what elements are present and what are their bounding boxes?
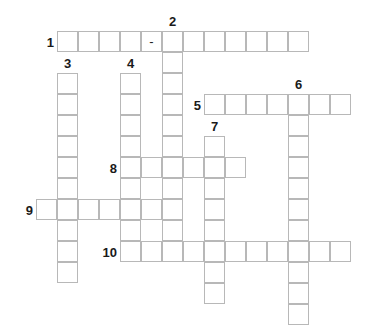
crossword-cell[interactable] xyxy=(225,94,246,115)
clue-number-10-across: 10 xyxy=(97,246,117,259)
crossword-cell[interactable] xyxy=(267,241,288,262)
crossword-cell[interactable] xyxy=(288,199,309,220)
crossword-cell-letter xyxy=(100,200,119,219)
crossword-cell[interactable] xyxy=(99,199,120,220)
crossword-cell[interactable] xyxy=(288,262,309,283)
crossword-cell[interactable] xyxy=(204,157,225,178)
crossword-cell[interactable] xyxy=(120,241,141,262)
crossword-cell[interactable] xyxy=(288,283,309,304)
crossword-cell[interactable] xyxy=(288,220,309,241)
crossword-cell-letter xyxy=(121,221,140,240)
crossword-cell-letter xyxy=(226,32,245,51)
crossword-cell[interactable] xyxy=(225,31,246,52)
crossword-cell-letter xyxy=(163,179,182,198)
crossword-cell[interactable] xyxy=(225,241,246,262)
crossword-cell[interactable] xyxy=(162,157,183,178)
crossword-cell-letter xyxy=(163,116,182,135)
crossword-cell[interactable] xyxy=(141,199,162,220)
crossword-cell[interactable] xyxy=(162,52,183,73)
crossword-cell[interactable] xyxy=(225,157,246,178)
crossword-cell[interactable] xyxy=(288,178,309,199)
crossword-cell-letter xyxy=(121,95,140,114)
crossword-cell[interactable] xyxy=(120,199,141,220)
crossword-cell-letter xyxy=(121,242,140,261)
crossword-cell[interactable] xyxy=(120,115,141,136)
crossword-cell[interactable] xyxy=(162,220,183,241)
crossword-cell[interactable] xyxy=(57,220,78,241)
crossword-cell-letter xyxy=(289,305,308,324)
crossword-cell[interactable] xyxy=(288,31,309,52)
crossword-cell[interactable] xyxy=(36,199,57,220)
crossword-cell[interactable] xyxy=(309,241,330,262)
crossword-cell[interactable] xyxy=(246,94,267,115)
crossword-cell[interactable] xyxy=(246,31,267,52)
crossword-cell[interactable] xyxy=(288,94,309,115)
crossword-cell[interactable] xyxy=(57,178,78,199)
crossword-cell[interactable] xyxy=(183,31,204,52)
crossword-cell-letter xyxy=(226,158,245,177)
crossword-cell[interactable] xyxy=(57,241,78,262)
crossword-cell[interactable] xyxy=(57,262,78,283)
crossword-cell[interactable] xyxy=(204,31,225,52)
crossword-cell[interactable] xyxy=(288,157,309,178)
crossword-cell[interactable] xyxy=(162,241,183,262)
crossword-cell-letter xyxy=(79,32,98,51)
crossword-cell-letter xyxy=(247,95,266,114)
crossword-cell[interactable] xyxy=(288,136,309,157)
crossword-cell[interactable] xyxy=(162,94,183,115)
crossword-cell[interactable] xyxy=(57,73,78,94)
crossword-cell[interactable] xyxy=(162,31,183,52)
crossword-cell[interactable] xyxy=(78,31,99,52)
crossword-cell[interactable] xyxy=(57,136,78,157)
crossword-cell[interactable] xyxy=(120,178,141,199)
crossword-cell[interactable] xyxy=(183,241,204,262)
crossword-cell[interactable] xyxy=(204,94,225,115)
crossword-cell-letter xyxy=(205,158,224,177)
crossword-cell[interactable] xyxy=(183,157,204,178)
crossword-cell[interactable] xyxy=(57,115,78,136)
crossword-cell[interactable] xyxy=(120,94,141,115)
crossword-cell[interactable] xyxy=(162,199,183,220)
crossword-cell[interactable] xyxy=(120,136,141,157)
crossword-cell[interactable] xyxy=(204,178,225,199)
crossword-cell[interactable] xyxy=(57,157,78,178)
crossword-cell[interactable] xyxy=(162,73,183,94)
crossword-cell[interactable] xyxy=(330,241,351,262)
crossword-cell[interactable] xyxy=(99,31,120,52)
crossword-cell[interactable] xyxy=(309,94,330,115)
crossword-cell[interactable] xyxy=(141,241,162,262)
crossword-cell-letter xyxy=(184,242,203,261)
crossword-cell[interactable] xyxy=(120,157,141,178)
crossword-cell[interactable] xyxy=(204,262,225,283)
crossword-cell[interactable] xyxy=(330,94,351,115)
crossword-cell[interactable] xyxy=(57,94,78,115)
crossword-cell[interactable] xyxy=(204,136,225,157)
crossword-cell[interactable]: - xyxy=(141,31,162,52)
crossword-cell-letter xyxy=(121,32,140,51)
crossword-cell[interactable] xyxy=(288,241,309,262)
crossword-cell[interactable] xyxy=(288,115,309,136)
crossword-cell[interactable] xyxy=(162,115,183,136)
crossword-cell[interactable] xyxy=(267,94,288,115)
crossword-cell[interactable] xyxy=(120,31,141,52)
crossword-cell[interactable] xyxy=(120,220,141,241)
crossword-cell[interactable] xyxy=(141,157,162,178)
crossword-cell[interactable] xyxy=(204,283,225,304)
clue-number-9-across: 9 xyxy=(13,204,33,217)
crossword-cell[interactable] xyxy=(204,220,225,241)
crossword-cell[interactable] xyxy=(204,199,225,220)
crossword-cell[interactable] xyxy=(246,241,267,262)
crossword-cell[interactable] xyxy=(78,199,99,220)
crossword-cell[interactable] xyxy=(162,136,183,157)
crossword-cell[interactable] xyxy=(120,73,141,94)
crossword-cell[interactable] xyxy=(162,178,183,199)
crossword-cell[interactable] xyxy=(57,31,78,52)
crossword-cell-letter xyxy=(163,95,182,114)
crossword-cell-letter xyxy=(58,221,77,240)
crossword-cell-letter xyxy=(289,263,308,282)
crossword-cell[interactable] xyxy=(57,199,78,220)
crossword-cell-letter xyxy=(163,137,182,156)
crossword-cell[interactable] xyxy=(267,31,288,52)
crossword-cell[interactable] xyxy=(288,304,309,325)
crossword-cell[interactable] xyxy=(204,241,225,262)
